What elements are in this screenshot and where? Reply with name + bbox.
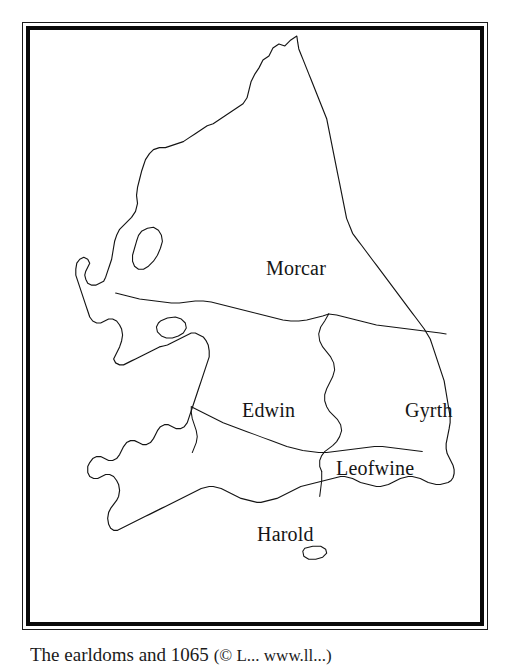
isle-of-wight [303,546,327,559]
figure-caption-credit: (© L... www.ll...) [214,646,332,665]
border-edwin-east [319,314,342,471]
figure-caption-main: The earldoms and 1065 [30,644,209,665]
map-label-gyrth: Gyrth [405,400,453,420]
figure-frame-inner-rule: Morcar Edwin Gyrth Leofwine Harold [26,26,484,626]
figure-caption: The earldoms and 1065 (© L... www.ll...) [30,642,490,668]
anglesey-island [156,317,186,338]
border-morcar-edwin [116,293,329,321]
border-harold-internal [320,472,322,497]
figure-frame-outer-rule: Morcar Edwin Gyrth Leofwine Harold [22,22,488,630]
map-label-harold: Harold [257,524,314,544]
map-label-edwin: Edwin [242,400,295,420]
map-label-morcar: Morcar [266,258,326,278]
border-edwin-harold [191,407,197,453]
border-leofwine-harold [191,407,422,453]
border-gyrth-leofwine [329,314,446,334]
england-earldoms-map [30,30,480,622]
map-label-leofwine: Leofwine [336,458,414,478]
map-plate: Morcar Edwin Gyrth Leofwine Harold [30,30,480,622]
isle-of-man [133,227,163,269]
